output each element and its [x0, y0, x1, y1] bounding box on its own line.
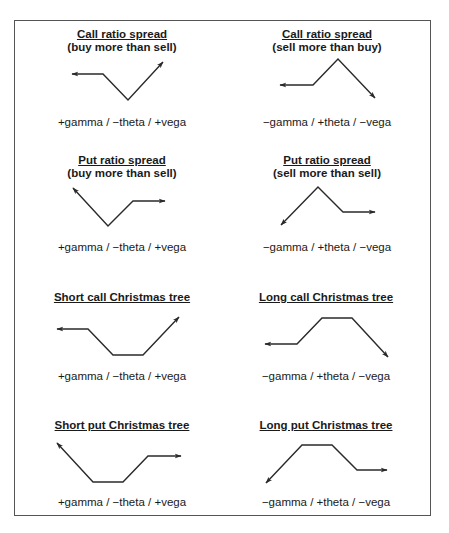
- panel-short-put-xmas-title: Short put Christmas tree: [22, 419, 222, 432]
- panel-subtitle-text: (sell more than sell): [227, 167, 427, 180]
- panel-title-text: Short put Christmas tree: [22, 419, 222, 432]
- panel-title-text: Put ratio spread: [227, 154, 427, 167]
- panel-subtitle-text: (sell more than buy): [227, 41, 427, 54]
- panel-call-ratio-sell-title: Call ratio spread (sell more than buy): [227, 28, 427, 54]
- panel-long-put-xmas-greeks: −gamma / +theta / −vega: [226, 496, 426, 509]
- panel-long-call-xmas-greeks: −gamma / +theta / −vega: [226, 370, 426, 383]
- figure-caption-partial: [20, 0, 440, 3]
- panel-put-ratio-sell-title: Put ratio spread (sell more than sell): [227, 154, 427, 180]
- panel-put-ratio-buy-title: Put ratio spread (buy more than sell): [22, 154, 222, 180]
- diagram-frame: [14, 20, 431, 516]
- panel-call-ratio-buy-greeks: +gamma / −theta / +vega: [22, 116, 222, 129]
- panel-call-ratio-buy-title: Call ratio spread (buy more than sell): [22, 28, 222, 54]
- panel-call-ratio-sell-greeks: −gamma / +theta / −vega: [227, 116, 427, 129]
- panel-subtitle-text: (buy more than sell): [22, 41, 222, 54]
- panel-long-put-xmas-title: Long put Christmas tree: [226, 419, 426, 432]
- panel-short-call-xmas-title: Short call Christmas tree: [22, 291, 222, 304]
- panel-title-text: Long put Christmas tree: [226, 419, 426, 432]
- panel-put-ratio-sell-greeks: −gamma / +theta / −vega: [227, 241, 427, 254]
- panel-title-text: Call ratio spread: [227, 28, 427, 41]
- panel-title-text: Call ratio spread: [22, 28, 222, 41]
- panel-title-text: Long call Christmas tree: [226, 291, 426, 304]
- panel-short-call-xmas-greeks: +gamma / −theta / +vega: [22, 370, 222, 383]
- panel-put-ratio-buy-greeks: +gamma / −theta / +vega: [22, 241, 222, 254]
- panel-short-put-xmas-greeks: +gamma / −theta / +vega: [22, 496, 222, 509]
- panel-title-text: Put ratio spread: [22, 154, 222, 167]
- panel-subtitle-text: (buy more than sell): [22, 167, 222, 180]
- panel-long-call-xmas-title: Long call Christmas tree: [226, 291, 426, 304]
- panel-title-text: Short call Christmas tree: [22, 291, 222, 304]
